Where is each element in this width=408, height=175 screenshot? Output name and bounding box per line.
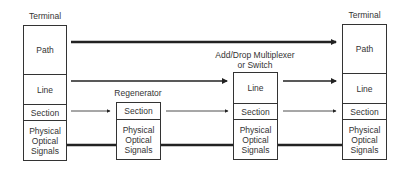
- terminal-right-path: Path: [343, 25, 386, 73]
- adm-section: Section: [234, 103, 277, 119]
- regenerator-box: Section Physical Optical Signals: [116, 102, 161, 160]
- terminal-left-label: Terminal: [23, 11, 67, 21]
- physical-text-1: Physical: [240, 125, 272, 135]
- terminal-right-physical: Physical Optical Signals: [343, 119, 386, 159]
- terminal-left-section: Section: [24, 104, 66, 120]
- physical-text-3: Signals: [125, 145, 153, 155]
- regenerator-physical: Physical Optical Signals: [117, 119, 160, 159]
- regenerator-section: Section: [117, 103, 160, 119]
- physical-text-2: Optical: [125, 135, 151, 145]
- physical-text-2: Optical: [32, 136, 58, 146]
- physical-text-2: Optical: [351, 135, 377, 145]
- adm-box: Line Section Physical Optical Signals: [233, 72, 278, 160]
- terminal-left-line: Line: [24, 74, 66, 104]
- adm-label-line1: Add/Drop Multiplexer: [215, 50, 295, 60]
- terminal-left-physical: Physical Optical Signals: [24, 120, 66, 160]
- terminal-right-box: Path Line Section Physical Optical Signa…: [342, 24, 387, 160]
- physical-text-1: Physical: [123, 125, 155, 135]
- adm-physical: Physical Optical Signals: [234, 119, 277, 159]
- physical-text-3: Signals: [31, 146, 59, 156]
- regenerator-label: Regenerator: [108, 88, 168, 98]
- physical-text-3: Signals: [351, 145, 379, 155]
- physical-text-1: Physical: [349, 125, 381, 135]
- adm-line: Line: [234, 73, 277, 103]
- physical-text-1: Physical: [29, 126, 61, 136]
- physical-text-2: Optical: [242, 135, 268, 145]
- terminal-left-path: Path: [24, 26, 66, 74]
- adm-label-line2: or Switch: [215, 60, 295, 70]
- physical-text-3: Signals: [242, 145, 270, 155]
- terminal-right-line: Line: [343, 73, 386, 103]
- terminal-left-box: Path Line Section Physical Optical Signa…: [23, 25, 67, 161]
- terminal-right-label: Terminal: [342, 10, 387, 20]
- terminal-right-section: Section: [343, 103, 386, 119]
